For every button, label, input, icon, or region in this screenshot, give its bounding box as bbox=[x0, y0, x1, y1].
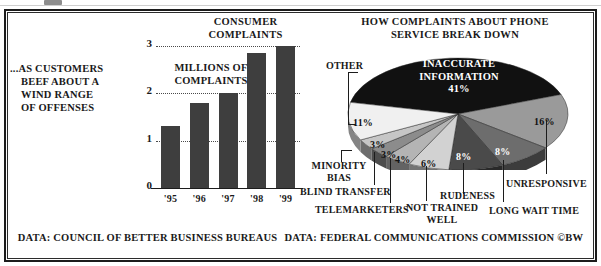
pie-label-minority-bias: MINORITY BIAS bbox=[304, 160, 374, 183]
pie-chart-title-line-2: SERVICE BREAK DOWN bbox=[330, 29, 580, 42]
bar-chart-x-tick: '98 bbox=[242, 193, 272, 204]
bar-chart-y-tick: 1 bbox=[147, 133, 153, 144]
top-divider bbox=[0, 5, 601, 6]
pie-value-unresponsive: 16% bbox=[534, 117, 555, 127]
bar-chart-ylabel: MILLIONS OF COMPLAINTS bbox=[150, 62, 272, 87]
bar-chart-title-line-1: CONSUMER bbox=[168, 16, 323, 29]
bar-chart-y-tick: 0 bbox=[147, 180, 153, 191]
leader-unresponsive bbox=[546, 120, 547, 174]
pie-label-telemarketers: TELEMARKETERS bbox=[315, 204, 409, 216]
bar-chart-y-tick: 3 bbox=[147, 38, 153, 49]
bar-chart-x-axis bbox=[151, 188, 303, 189]
caption-line-2: BEEF ABOUT A bbox=[10, 75, 130, 88]
leader-other-vertical bbox=[348, 72, 349, 124]
pie-label-long-wait-time: LONG WAIT TIME bbox=[489, 205, 579, 217]
pie-chart-title: HOW COMPLAINTS ABOUT PHONE SERVICE BREAK… bbox=[330, 16, 580, 41]
pie-label-minority-bias-line-2: BIAS bbox=[304, 172, 374, 184]
pie-value-rudeness: 8% bbox=[456, 152, 471, 162]
bar-chart-bar bbox=[219, 93, 238, 188]
footer-source-left: DATA: COUNCIL OF BETTER BUSINESS BUREAUS bbox=[18, 232, 278, 243]
bar-chart-x-tick: '96 bbox=[184, 193, 214, 204]
pie-center-label-value: 41% bbox=[398, 83, 520, 96]
footer-credit: ©BW bbox=[557, 232, 583, 243]
caption-line-1: ...AS CUSTOMERS bbox=[10, 62, 130, 75]
pie-label-other: OTHER bbox=[326, 60, 363, 72]
bar-chart-bar bbox=[276, 46, 295, 188]
pie-label-not-trained-line-1: NOT TRAINED bbox=[404, 202, 480, 214]
pie-center-label-line-2: INFORMATION bbox=[398, 71, 520, 84]
leader-blind-transfer bbox=[374, 152, 375, 185]
leader-other-top bbox=[348, 72, 358, 73]
bar-chart-x-tick: '99 bbox=[271, 193, 301, 204]
leader-other-bottom bbox=[348, 124, 356, 125]
leader-not-trained bbox=[426, 166, 427, 201]
caption-line-4: OF OFFENSES bbox=[10, 101, 130, 114]
caption-text: ...AS CUSTOMERS BEEF ABOUT A WIND RANGE … bbox=[10, 62, 130, 114]
footer-sources: DATA: COUNCIL OF BETTER BUSINESS BUREAUS… bbox=[7, 232, 594, 243]
caption-line-3: WIND RANGE bbox=[10, 88, 130, 101]
pie-value-other: 11% bbox=[353, 118, 373, 128]
pie-label-not-trained: NOT TRAINED WELL bbox=[404, 202, 480, 225]
pie-center-label: INACCURATE INFORMATION 41% bbox=[398, 58, 520, 96]
pie-chart-title-line-1: HOW COMPLAINTS ABOUT PHONE bbox=[330, 16, 580, 29]
bar-chart-bar bbox=[161, 126, 180, 188]
bar-chart-bar bbox=[190, 103, 209, 188]
leader-minority-horizontal bbox=[341, 150, 352, 151]
bar-chart-ylabel-line-1: MILLIONS OF bbox=[150, 62, 272, 75]
pie-value-long-wait: 8% bbox=[495, 147, 510, 157]
bar-chart-ylabel-line-2: COMPLAINTS bbox=[150, 75, 272, 88]
pie-label-unresponsive: UNRESPONSIVE bbox=[506, 178, 587, 190]
pie-label-not-trained-line-2: WELL bbox=[404, 214, 480, 226]
bar-chart-x-tick: '97 bbox=[213, 193, 243, 204]
infographic-panel: ...AS CUSTOMERS BEEF ABOUT A WIND RANGE … bbox=[0, 0, 601, 266]
pie-value-not-trained: 6% bbox=[421, 159, 436, 169]
bar-chart-title: CONSUMER COMPLAINTS bbox=[168, 16, 323, 41]
pie-label-minority-bias-line-1: MINORITY bbox=[304, 160, 374, 172]
pie-center-label-line-1: INACCURATE bbox=[398, 58, 520, 71]
pie-label-blind-transfer: BLIND TRANSFER bbox=[300, 186, 391, 198]
bar-chart-title-line-2: COMPLAINTS bbox=[168, 29, 323, 42]
pie-value-telemarketers: 4% bbox=[395, 155, 410, 165]
bar-chart-x-tick: '95 bbox=[155, 193, 185, 204]
leader-long-wait bbox=[503, 160, 504, 202]
footer-source-right: DATA: FEDERAL COMMUNICATIONS COMMISSION bbox=[284, 232, 554, 243]
pie-label-rudeness: RUDENESS bbox=[440, 190, 495, 202]
